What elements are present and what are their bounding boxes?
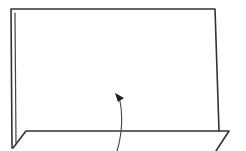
back-panel-outline [11, 9, 219, 148]
arrowhead-icon [115, 93, 124, 102]
fold-arrow-shaft [117, 101, 122, 151]
side-edge-line [15, 13, 16, 143]
fold-diagram [0, 0, 246, 151]
